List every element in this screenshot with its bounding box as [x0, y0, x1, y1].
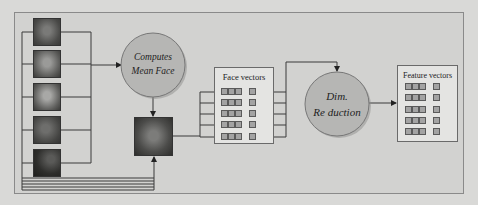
feature-vector-row-1-cell-2	[412, 83, 419, 90]
face-vectors-label: Face vectors	[215, 72, 273, 82]
face-vector-row-2-cell-3	[235, 99, 242, 106]
feature-vector-row-3-cell-3	[419, 106, 426, 113]
dim-reduction-label: Dim. Re duction	[305, 88, 369, 120]
dim-reduction-line1: Dim.	[305, 88, 369, 104]
feature-vector-row-1-cell-3	[419, 83, 426, 90]
face-vector-row-5-cell-2	[228, 133, 235, 140]
input-face-2	[33, 50, 61, 78]
face-vector-row-5-cell-3	[235, 133, 242, 140]
feature-vector-row-5-cell-4	[433, 128, 440, 135]
dim-reduction-line2: Re duction	[305, 104, 369, 120]
compute-mean-line2: Mean Face	[121, 64, 185, 78]
feature-vector-row-2-cell-4	[433, 94, 440, 101]
face-vector-row-4-cell-2	[228, 121, 235, 128]
input-face-5	[33, 149, 61, 177]
face-vector-row-2-cell-1	[221, 99, 228, 106]
face-vector-row-2-cell-4	[249, 99, 256, 106]
feature-vector-row-4-cell-2	[412, 117, 419, 124]
feature-vector-row-2-cell-3	[419, 94, 426, 101]
feature-vectors-label: Feature vectors	[398, 71, 457, 80]
feature-vector-row-2-cell-2	[412, 94, 419, 101]
feature-vector-row-3-cell-1	[405, 106, 412, 113]
face-vector-row-2-cell-2	[228, 99, 235, 106]
input-face-1	[33, 18, 61, 46]
feature-vector-row-1-cell-4	[433, 83, 440, 90]
feature-vector-row-4-cell-4	[433, 117, 440, 124]
feature-vector-row-3-cell-2	[412, 106, 419, 113]
face-vector-row-1-cell-2	[228, 88, 235, 95]
mean-face-image	[134, 117, 173, 156]
face-vector-row-4-cell-3	[235, 121, 242, 128]
feature-vector-row-5-cell-2	[412, 128, 419, 135]
feature-vector-row-3-cell-4	[433, 106, 440, 113]
feature-vector-row-1-cell-1	[405, 83, 412, 90]
face-vector-row-3-cell-2	[228, 110, 235, 117]
face-vector-row-4-cell-4	[249, 121, 256, 128]
face-vector-row-5-cell-4	[249, 133, 256, 140]
feature-vector-row-4-cell-1	[405, 117, 412, 124]
compute-mean-label: Computes Mean Face	[121, 50, 185, 78]
face-vector-row-3-cell-3	[235, 110, 242, 117]
face-vector-row-1-cell-4	[249, 88, 256, 95]
face-vector-row-1-cell-1	[221, 88, 228, 95]
feature-vector-row-5-cell-1	[405, 128, 412, 135]
face-vector-row-3-cell-4	[249, 110, 256, 117]
face-vector-row-4-cell-1	[221, 121, 228, 128]
input-face-3	[33, 83, 61, 111]
face-vector-row-5-cell-1	[221, 133, 228, 140]
face-vector-row-1-cell-3	[235, 88, 242, 95]
diagram-canvas: Computes Mean Face Face vectors Dim. Re …	[0, 0, 478, 205]
feature-vector-row-5-cell-3	[419, 128, 426, 135]
compute-mean-line1: Computes	[121, 50, 185, 64]
face-vector-row-3-cell-1	[221, 110, 228, 117]
feature-vector-row-4-cell-3	[419, 117, 426, 124]
input-face-4	[33, 116, 61, 144]
feature-vector-row-2-cell-1	[405, 94, 412, 101]
